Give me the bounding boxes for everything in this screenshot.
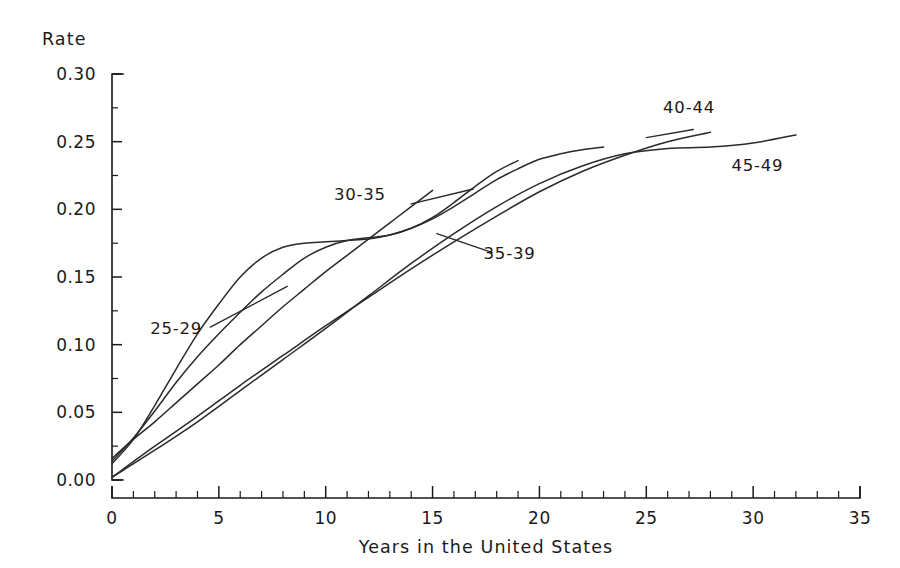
- leader-line-30-35: [411, 189, 473, 204]
- y-tick-label: 0.30: [56, 64, 96, 84]
- leader-line-40-44: [646, 129, 693, 137]
- chart-plot-area: 0.000.050.100.150.200.250.30 05101520253…: [0, 0, 900, 568]
- series-annotation-labels: 25-2930-3535-3940-4445-49: [150, 98, 783, 338]
- y-tick-label: 0.05: [56, 402, 96, 422]
- x-tick-label: 5: [213, 508, 224, 528]
- series-curve-40-44: [112, 132, 710, 477]
- x-tick-label: 30: [742, 508, 765, 528]
- series-label-30-35: 30-35: [334, 185, 386, 204]
- y-axis-tick-labels: 0.000.050.100.150.200.250.30: [56, 64, 96, 490]
- series-label-35-39: 35-39: [484, 244, 536, 263]
- series-curve-45-49: [112, 135, 796, 477]
- x-tick-label: 10: [314, 508, 337, 528]
- x-axis-line: [112, 487, 860, 498]
- x-axis-title: Years in the United States: [358, 537, 614, 557]
- x-tick-label: 35: [849, 508, 872, 528]
- x-tick-label: 25: [635, 508, 658, 528]
- series-label-40-44: 40-44: [663, 98, 715, 117]
- y-tick-label: 0.20: [56, 199, 96, 219]
- x-axis-tick-labels: 05101520253035: [106, 508, 871, 528]
- annotation-leader-lines: [210, 129, 693, 327]
- x-axis-ticks: [112, 486, 860, 498]
- data-series-group: [112, 132, 796, 477]
- y-axis-title: Rate: [42, 29, 87, 49]
- y-tick-label: 0.10: [56, 335, 96, 355]
- series-label-25-29: 25-29: [150, 319, 202, 338]
- series-label-45-49: 45-49: [731, 156, 783, 175]
- axis-group: 0.000.050.100.150.200.250.30 05101520253…: [56, 64, 871, 528]
- y-tick-label: 0.15: [56, 267, 96, 287]
- series-curve-35-39: [112, 161, 518, 461]
- x-tick-label: 15: [421, 508, 444, 528]
- y-tick-label: 0.25: [56, 132, 96, 152]
- chart-figure: 0.000.050.100.150.200.250.30 05101520253…: [0, 0, 900, 568]
- leader-line-25-29: [210, 286, 287, 327]
- y-axis-ticks: [112, 74, 122, 480]
- x-tick-label: 20: [528, 508, 551, 528]
- y-tick-label: 0.00: [56, 470, 96, 490]
- x-tick-label: 0: [106, 508, 117, 528]
